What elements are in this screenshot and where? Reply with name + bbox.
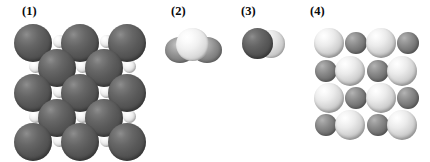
ionic-lattice-dark-model — [12, 22, 152, 156]
ionic-lattice-checkerboard-model — [312, 26, 418, 138]
panel-4: (4) — [300, 0, 430, 162]
small-mid-sphere — [367, 60, 389, 82]
large-pale-sphere — [387, 56, 417, 86]
large-pale-sphere — [387, 110, 417, 140]
large-pale-sphere — [366, 28, 396, 58]
small-mid-sphere — [345, 32, 367, 54]
large-dark-sphere — [61, 123, 99, 161]
large-dark-sphere — [108, 123, 146, 161]
panel-1: (1) — [0, 0, 160, 162]
large-pale-sphere — [314, 28, 344, 58]
panel-1-label: (1) — [22, 5, 37, 18]
small-mid-sphere — [397, 32, 419, 54]
diatomic-molecule-model — [240, 26, 296, 70]
molecule-atom-left — [242, 28, 273, 59]
triatomic-molecule-model — [164, 25, 228, 75]
small-mid-sphere — [315, 114, 337, 136]
panel-3: (3) — [232, 0, 300, 162]
small-mid-sphere — [367, 114, 389, 136]
panel-2: (2) — [160, 0, 232, 162]
chemistry-models-figure: (1) — [0, 0, 430, 162]
panel-3-label: (3) — [241, 5, 256, 18]
panel-2-label: (2) — [171, 5, 186, 18]
large-pale-sphere — [366, 83, 396, 113]
large-pale-sphere — [335, 110, 365, 140]
large-dark-sphere — [14, 123, 52, 161]
panel-4-label: (4) — [310, 5, 325, 18]
small-mid-sphere — [397, 87, 419, 109]
molecule-atom-center — [176, 28, 209, 61]
large-pale-sphere — [335, 56, 365, 86]
small-mid-sphere — [315, 60, 337, 82]
large-pale-sphere — [314, 83, 344, 113]
small-mid-sphere — [345, 87, 367, 109]
